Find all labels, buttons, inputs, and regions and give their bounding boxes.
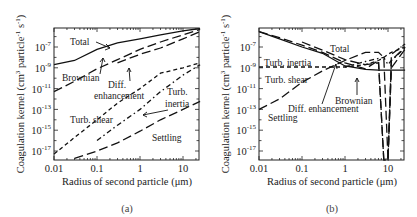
panel-a-xtick-0.1: 0.1 <box>90 163 103 174</box>
panel-b-xlabel: Radius of second particle (μm) <box>267 176 397 188</box>
panel-a-ytick-1e-7: 10-7 <box>35 40 52 53</box>
panel-a-label-brownian: Brownian <box>62 73 100 83</box>
panel-a-arrow-turb-inertia <box>143 110 168 117</box>
panel-a-ytick-1e-17: 10-17 <box>31 144 51 157</box>
panel-a-ytick-1e-13: 10-13 <box>31 103 51 116</box>
panel-b-ytick-1e-11: 10-11 <box>236 82 256 95</box>
panel-a-xtick-1: 1 <box>137 163 142 174</box>
panel-a-ytick-1e-9: 10-9 <box>35 61 52 74</box>
panel-b-ylabel: Coagulation kernel (cm3 particle-1 s-1) <box>219 14 232 173</box>
panel-b-xtick-0.01: 0.01 <box>250 163 268 174</box>
panel-a-label-total: Total <box>70 37 90 47</box>
panel-b-ytick-1e-17: 10-17 <box>236 144 256 157</box>
panel-a-plot: Coagulation kernel (cm3 particle-1 s-1) … <box>14 14 200 215</box>
panel-b-label-diff: Diff. enhancement <box>288 104 359 114</box>
panel-b-xtick-0.1: 0.1 <box>295 163 308 174</box>
panel-a-ytick-1e-15: 10-15 <box>31 123 51 136</box>
curve-diff-enhancement <box>118 32 201 63</box>
panel-b-ytick-1e-15: 10-15 <box>236 123 256 136</box>
panel-a-ytick-1e-11: 10-11 <box>31 82 51 95</box>
panel-a-xtick-0.01: 0.01 <box>45 163 63 174</box>
panel-a-label-diff: Diff. <box>108 80 126 90</box>
panel-a-xlabel: Radius of second particle (μm) <box>62 176 192 188</box>
panel-a-ylabel: Coagulation kernel (cm3 particle-1 s-1) <box>14 14 27 173</box>
panel-a-label-inertia: inertia <box>165 99 190 109</box>
coagulation-kernel-figure: Coagulation kernel (cm3 particle-1 s-1) … <box>0 0 417 217</box>
figure-canvas: Coagulation kernel (cm3 particle-1 s-1) … <box>0 0 417 217</box>
panel-b-arrow-brownian <box>355 78 359 95</box>
panel-b-xtick-1: 1 <box>342 163 347 174</box>
panel-a-xtick-10: 10 <box>178 163 189 174</box>
panel-b-ytick-1e-9: 10-9 <box>240 61 257 74</box>
panel-a-label-turb: Turb. <box>167 87 188 97</box>
panel-a-caption: (a) <box>121 203 133 215</box>
panel-b-label-turb-shear: Turb. shear <box>265 75 309 85</box>
panel-a-label-enhancement: enhancement <box>94 91 144 101</box>
panel-b-ytick-1e-7: 10-7 <box>240 40 257 53</box>
panel-b-label-settling: Settling <box>268 113 298 123</box>
panel-a-arrow-diff <box>127 68 131 81</box>
panel-b-xtick-10: 10 <box>383 163 394 174</box>
panel-b-ytick-1e-13: 10-13 <box>236 103 256 116</box>
curve-settling <box>75 101 201 158</box>
panel-b-label-total: Total <box>330 44 350 54</box>
panel-b-plot: Coagulation kernel (cm3 particle-1 s-1) … <box>219 14 405 215</box>
panel-b-label-turb-inertia: Turb. inertia <box>264 58 312 68</box>
panel-b-caption: (b) <box>326 203 339 215</box>
panel-a-label-settling: Settling <box>152 133 182 143</box>
panel-a-label-turb-shear: Turb. shear <box>70 115 114 125</box>
